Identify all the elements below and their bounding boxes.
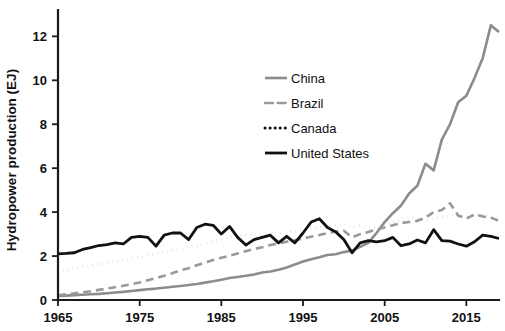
series-line-brazil xyxy=(58,203,499,295)
x-tick-label: 1975 xyxy=(125,310,154,325)
legend-label-brazil: Brazil xyxy=(291,96,324,111)
series-line-china xyxy=(58,25,499,296)
y-tick-label: 2 xyxy=(40,249,47,264)
y-tick-label: 8 xyxy=(40,117,47,132)
x-tick-label: 1985 xyxy=(207,310,236,325)
x-tick-label: 1995 xyxy=(289,310,318,325)
axes-layer xyxy=(58,10,499,300)
hydropower-production-chart: 024681012 196519751985199520052015 Hydro… xyxy=(0,0,505,331)
chart-canvas: 024681012 196519751985199520052015 Hydro… xyxy=(0,0,505,331)
y-axis-title-group: Hydropower production (EJ) xyxy=(4,69,19,251)
series-layer xyxy=(58,25,499,296)
y-tick-label: 10 xyxy=(33,73,47,88)
y-tick-label: 6 xyxy=(40,161,47,176)
legend-label-canada: Canada xyxy=(291,121,337,136)
chart-legend: ChinaBrazilCanadaUnited States xyxy=(265,71,370,161)
x-tick-label: 1965 xyxy=(44,310,73,325)
x-tick-label: 2005 xyxy=(370,310,399,325)
y-tick-label: 12 xyxy=(33,29,47,44)
y-tick-label: 0 xyxy=(40,293,47,308)
legend-label-united-states: United States xyxy=(291,146,370,161)
y-axis-title: Hydropower production (EJ) xyxy=(4,69,19,251)
legend-label-china: China xyxy=(291,71,326,86)
y-tick-label: 4 xyxy=(40,205,48,220)
x-axis-ticks: 196519751985199520052015 xyxy=(44,300,481,325)
series-line-united-states xyxy=(58,219,499,254)
x-tick-label: 2015 xyxy=(452,310,481,325)
y-axis-ticks: 024681012 xyxy=(33,29,58,308)
